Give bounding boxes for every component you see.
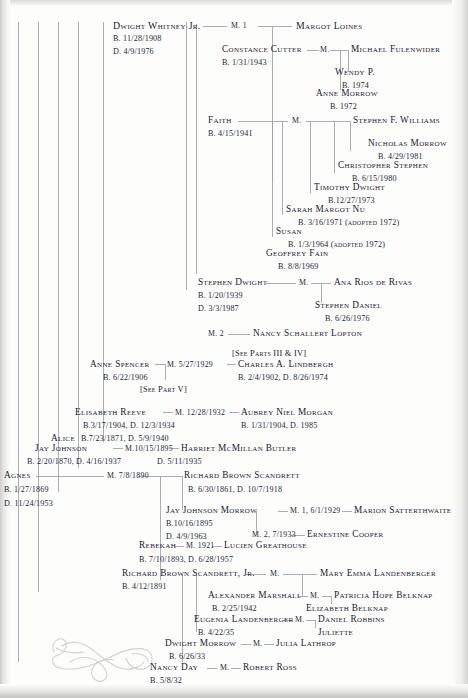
person-name-juliette: Juliette (318, 628, 353, 637)
marriage-label-dwight-margot: M. 1 (231, 22, 247, 30)
marriage-label-jay-harriet: M.10/15/1895 (125, 445, 173, 453)
person-died-agnes: D. 11/24/1953 (4, 500, 53, 508)
person-name-nancy-schallert-lopton: Nancy Schallert Lopton (253, 329, 362, 338)
page-edge-shading-top (0, 0, 468, 6)
person-name-sarah-margot-nu: Sarah Margot Nu (286, 205, 365, 214)
person-born-jay-johnson: B. 2/20/1870, D. 4/16/1937 (27, 458, 121, 466)
person-born-sarah-margot-nu: B. 3/16/1971 (adopted 1972) (298, 219, 399, 227)
marriage-rule-elisabeth-aubrey-right (229, 412, 239, 413)
genealogy-chart-page: Dwight Whitney Jr. B. 11/28/1908 D. 4/9/… (0, 0, 468, 698)
person-born-faith: B. 4/15/1941 (208, 130, 253, 138)
marriage-label-nancy-robert: M. (220, 664, 229, 672)
marriage-rule-constance-left (307, 50, 319, 51)
person-name-robert-ross: Robert Ross (243, 663, 297, 672)
person-born-geoffrey-fain: B. 8/8/1969 (278, 263, 318, 271)
person-name-nicholas-morrow: Nicholas Morrow (368, 139, 447, 148)
person-name-jay-johnson: Jay Johnson (35, 444, 87, 453)
person-name-anne-morrow-fulenwider: Anne Morrow (316, 89, 378, 98)
person-name-ana-rios-de-rivas: Ana Rios de Rivas (334, 278, 412, 287)
person-name-constance-cutter: Constance Cutter (222, 45, 302, 54)
marriage-rule-agnes-richard-left (36, 476, 104, 477)
person-born-jay-johnson-morrow: B.10/16/1895 (166, 520, 213, 528)
person-died-dwight-whitney-jr: D. 4/9/1976 (113, 48, 154, 56)
marriage-rule-nancy-robert-left (207, 668, 217, 669)
marriage-rule-elisabeth-aubrey-left (163, 412, 173, 413)
person-born-alice: B.7/23/1871, D. 5/9/1940 (81, 435, 169, 443)
person-name-julia-lathrop: Julia Lathrop (276, 639, 336, 648)
marriage-rule-dwight-julia-left (241, 644, 251, 645)
marriage-label-agnes-richard: M. 7/8/1890 (107, 472, 149, 480)
cross-reference-parts-3-4[interactable]: [See Parts III & IV] (232, 350, 306, 358)
marriage-label-rebekah-lucien: M. 1921 (186, 542, 215, 550)
person-name-agnes: Agnes (4, 471, 31, 480)
descent-rule-anne-spencer-part5 (165, 364, 166, 380)
descent-rule-timothy (310, 121, 311, 193)
person-born-nancy-day: B. 5/8/32 (150, 677, 182, 685)
person-name-anne-spencer: Anne Spencer (90, 360, 150, 369)
marriage-rule-dwight-julia-right (264, 644, 274, 645)
marriage-label-elisabeth-aubrey: M. 12/28/1932 (175, 409, 225, 417)
marriage-rule-dwight-margot-right (258, 26, 292, 27)
person-name-stephen-f-williams: Stephen F. Williams (353, 116, 440, 125)
person-born-stephen-daniel: B. 6/26/1976 (325, 315, 370, 323)
person-name-harriet-mcmillan-butler: Harriet McMillan Butler (181, 444, 297, 453)
person-born-anne-morrow-fulenwider: B. 1972 (330, 103, 357, 111)
marriage-label-jay-morrow-ernestine: M. 2, 7/1933 (252, 531, 296, 539)
descent-rule-rbs-jr-children (302, 574, 303, 596)
person-name-dwight-morrow: Dwight Morrow (165, 639, 236, 648)
marriage-rule-nancy-lopton (228, 334, 250, 335)
person-name-patricia-hope-belknap: Patricia Hope Belknap (334, 591, 433, 600)
person-born-dwight-whitney-jr: B. 11/28/1908 (113, 35, 162, 43)
person-name-dwight-whitney-jr: Dwight Whitney Jr. (113, 21, 201, 31)
person-name-elisabeth-reeve: Elisabeth Reeve (75, 408, 146, 417)
marriage-label-dwight-julia: M. (253, 640, 262, 648)
marriage-label-faith-stephen: M. (292, 117, 301, 125)
person-died-stephen-dwight: D. 3/3/1987 (198, 305, 239, 313)
marriage-label-constance-michael: M. (320, 46, 329, 54)
person-name-stephen-daniel: Stephen Daniel (315, 301, 382, 310)
person-name-nancy-day: Nancy Day (150, 663, 198, 672)
person-name-timothy-dwight: Timothy Dwight (314, 183, 385, 192)
person-name-alice: Alice (51, 434, 75, 443)
person-name-rebekah: Rebekah (139, 541, 176, 550)
marriage-rule-jay-harriet-left (113, 448, 123, 449)
lineage-rule-dwight-children (196, 24, 197, 274)
person-name-jay-johnson-morrow: Jay Johnson Morrow (166, 506, 257, 515)
marriage-label-jay-morrow-marion: M. 1, 6/1/1929 (290, 507, 341, 515)
marriage-label-eugenia-daniel: M. (295, 616, 304, 624)
lineage-rule-gen1 (18, 22, 19, 662)
person-name-faith: Faith (208, 116, 232, 125)
person-name-richard-brown-scandrett: Richard Brown Scandrett (184, 471, 300, 480)
person-born-elisabeth-reeve: B.3/17/1904, D. 12/3/1934 (83, 422, 175, 430)
lineage-rule-gen3 (58, 22, 59, 492)
marriage-rule-anne-lindbergh-left (155, 364, 165, 365)
marriage-label-rbs-jr-mary: M. (270, 570, 279, 578)
person-name-ernestine-cooper: Ernestine Cooper (307, 530, 384, 539)
person-born-richard-brown-scandrett-jr: B. 4/12/1891 (122, 583, 167, 591)
descent-rule-juliette (315, 620, 316, 628)
person-name-aubrey-niel-morgan: Aubrey Niel Morgan (241, 408, 333, 417)
person-died-harriet-mcmillan-butler: D. 5/11/1935 (157, 458, 202, 466)
marriage-rule-nancy-robert-right (231, 668, 241, 669)
marriage-rule-jay-morrow-marion-right (342, 511, 352, 512)
person-born-dwight-morrow: B. 6/26/33 (169, 653, 205, 661)
person-name-alexander-marshall: Alexander Marshall (208, 591, 302, 600)
person-born-aubrey-niel-morgan: B. 1/31/1904, D. 1985 (241, 422, 318, 430)
person-name-wendy-p: Wendy P. (335, 68, 375, 77)
person-name-richard-brown-scandrett-jr: Richard Brown Scandrett, Jr. (122, 569, 255, 578)
marriage-rule-dwight-margot-left (203, 26, 227, 27)
marriage-label-anne-lindbergh: M. 5/27/1929 (167, 361, 213, 369)
person-born-stephen-dwight: B. 1/20/1939 (198, 292, 243, 300)
person-born-rebekah: B. 7/10/1893, D. 6/28/1957 (139, 556, 233, 564)
descent-rule-scandrett-jr-line (182, 574, 183, 662)
person-name-charles-a-lindbergh: Charles A. Lindbergh (238, 360, 333, 369)
page-edge-shading-right (452, 0, 468, 698)
cross-reference-part-5[interactable]: [See Part V] (140, 386, 187, 394)
person-name-geoffrey-fain: Geoffrey Fain (266, 249, 328, 258)
person-name-lucien-greathouse: Lucien Greathouse (224, 541, 307, 550)
marriage-label-stephen-nancy: M. 2 (208, 330, 224, 338)
descent-rule-christopher (334, 121, 335, 173)
person-name-margot-loines: Margot Loines (296, 21, 362, 31)
person-name-eugenia-landenberger: Eugenia Landenberger (194, 615, 294, 624)
person-name-elizabeth-belknap: Elizabeth Belknap (306, 604, 388, 613)
